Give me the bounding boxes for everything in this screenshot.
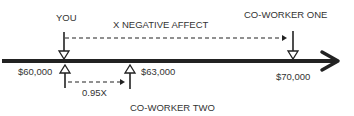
label-salary-you: $60,000	[18, 67, 52, 77]
you-salary-up-arrow	[60, 65, 70, 88]
ratio-dashed-arrow	[68, 79, 125, 85]
negative-affect-dashed-arrow	[65, 35, 287, 41]
label-salary-coworker-one: $70,000	[276, 72, 310, 82]
label-coworker-two: CO-WORKER TWO	[130, 103, 215, 113]
you-marker-arrow	[59, 32, 69, 59]
label-ratio: 0.95X	[82, 88, 107, 98]
label-you: YOU	[56, 13, 77, 23]
label-coworker-one: CO-WORKER ONE	[244, 10, 327, 20]
coworker-two-up-arrow	[125, 65, 135, 89]
label-salary-coworker-two: $63,000	[141, 67, 175, 77]
label-negative-affect: X NEGATIVE AFFECT	[113, 20, 208, 30]
coworker-one-marker-arrow	[288, 31, 298, 59]
